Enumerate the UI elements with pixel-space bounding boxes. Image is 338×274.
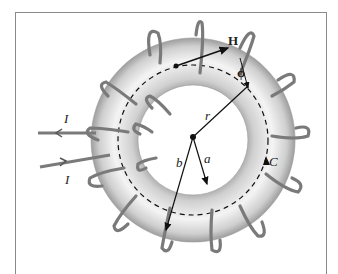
label-c: C	[269, 154, 278, 169]
label-b: b	[176, 155, 183, 170]
label-i-bottom: I	[64, 172, 70, 187]
label-a: a	[204, 151, 211, 166]
label-phi: ϕ	[237, 65, 245, 80]
label-h: H	[228, 33, 238, 48]
label-i-top: I	[63, 111, 69, 126]
